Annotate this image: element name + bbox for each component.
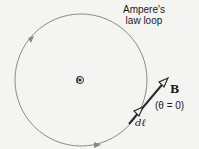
ampere-law-diagram: Ampere's law loop i B (θ = 0) dℓ (0, 0, 199, 149)
loop-title: Ampere's law loop (123, 4, 165, 26)
b-field-label: B (170, 83, 179, 96)
loop-title-line2: law loop (123, 15, 165, 26)
diagram-graphics (0, 0, 199, 149)
loop-title-line1: Ampere's (123, 4, 165, 15)
current-label: i (76, 74, 79, 85)
angle-label: (θ = 0) (155, 100, 184, 111)
line-element-label: dℓ (135, 117, 146, 128)
dl-vector-arrowhead-icon (134, 107, 143, 116)
